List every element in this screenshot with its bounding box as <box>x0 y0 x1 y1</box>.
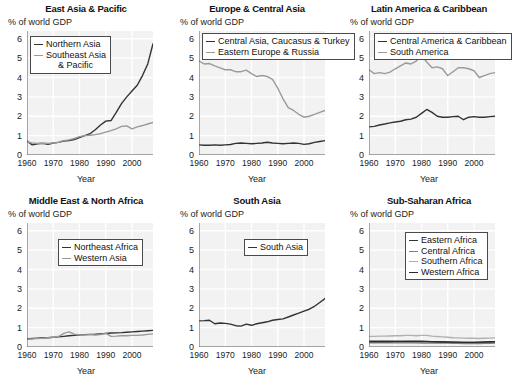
x-tick-label: 1990 <box>268 158 287 168</box>
legend-item: Northern Asia <box>34 39 106 50</box>
legend: Eastern AfricaCentral AfricaSouthern Afr… <box>405 232 488 280</box>
x-tick-label: 1980 <box>70 158 89 168</box>
x-tick-label: 2000 <box>123 350 142 360</box>
legend-line-swatch <box>206 52 215 53</box>
y-tick-label: 2 <box>6 111 22 121</box>
legend-label: Central Asia, Caucasus & Turkey <box>218 36 350 47</box>
x-tick-label: 1970 <box>44 350 63 360</box>
x-tick-label: 1960 <box>360 158 379 168</box>
legend-item: Eastern Europe & Russia <box>206 47 350 58</box>
legend-line-swatch <box>34 44 43 45</box>
legend: Northeast AfricaWestern Asia <box>58 239 143 266</box>
x-axis-ticks: 19601970198019902000 <box>369 156 495 170</box>
x-axis-title: Year <box>0 174 172 184</box>
chart-panel: Sub-Saharan Africa% of world GDP01234561… <box>342 192 516 384</box>
y-tick-label: 6 <box>6 226 22 236</box>
y-tick-label: 6 <box>178 34 194 44</box>
y-tick-label: 2 <box>6 303 22 313</box>
legend-line-swatch <box>378 52 387 53</box>
x-axis-title: Year <box>342 174 516 184</box>
y-axis-ticks: 0123456 <box>176 223 194 347</box>
x-axis-title: Year <box>172 174 342 184</box>
legend-line-swatch <box>206 41 215 42</box>
x-axis-title: Year <box>342 366 516 376</box>
y-tick-label: 3 <box>6 284 22 294</box>
y-tick-label: 4 <box>178 265 194 275</box>
x-axis-ticks: 19601970198019902000 <box>199 348 325 362</box>
y-tick-label: 5 <box>6 53 22 63</box>
y-axis-ticks: 0123456 <box>176 31 194 155</box>
x-tick-label: 2000 <box>295 350 314 360</box>
legend-item: Central America & Caribbean <box>378 36 507 47</box>
legend-line-swatch <box>409 240 418 241</box>
legend-line-swatch <box>409 251 418 252</box>
y-tick-label: 5 <box>178 53 194 63</box>
legend-line-swatch <box>62 258 71 259</box>
legend-item: South Asia <box>248 242 303 253</box>
y-axis-unit-label: % of world GDP <box>8 209 72 219</box>
x-tick-label: 1990 <box>438 350 457 360</box>
legend: Central America & CaribbeanSouth America <box>374 33 512 60</box>
x-tick-label: 1980 <box>412 350 431 360</box>
legend: South Asia <box>244 239 308 256</box>
x-tick-label: 2000 <box>295 158 314 168</box>
panel-title: East Asia & Pacific <box>0 3 172 14</box>
figure-grid: East Asia & Pacific% of world GDP0123456… <box>0 0 516 384</box>
legend-item: Western Africa <box>409 267 483 278</box>
x-tick-label: 1990 <box>96 350 115 360</box>
legend-item: Western Asia <box>62 253 138 264</box>
y-tick-label: 2 <box>178 303 194 313</box>
panel-title: South Asia <box>172 195 342 206</box>
legend-item: Central Africa <box>409 246 483 257</box>
x-tick-label: 1960 <box>18 158 37 168</box>
legend-label: Western Africa <box>421 267 479 278</box>
legend-label: Western Asia <box>74 253 127 264</box>
legend-label: Eastern Africa <box>421 235 477 246</box>
y-axis-ticks: 0123456 <box>4 31 22 155</box>
x-tick-label: 1980 <box>242 158 261 168</box>
legend-label: South America <box>390 47 449 58</box>
panel-title: Middle East & North Africa <box>0 195 172 206</box>
x-axis-title: Year <box>172 366 342 376</box>
x-tick-label: 1990 <box>96 158 115 168</box>
panel-title: Europe & Central Asia <box>172 3 342 14</box>
y-tick-label: 5 <box>6 245 22 255</box>
legend-line-swatch <box>248 247 257 248</box>
chart-panel: South Asia% of world GDP0123456196019701… <box>172 192 342 384</box>
y-tick-label: 4 <box>348 73 364 83</box>
legend-label: Southern Africa <box>421 256 483 267</box>
panel-title: Latin America & Caribbean <box>342 3 516 14</box>
y-tick-label: 2 <box>178 111 194 121</box>
legend-label: Northern Asia <box>46 39 101 50</box>
legend-label: Northeast Africa <box>74 242 138 253</box>
legend-item: Southern Africa <box>409 256 483 267</box>
y-axis-unit-label: % of world GDP <box>350 209 414 219</box>
x-tick-label: 1970 <box>44 158 63 168</box>
y-axis-unit-label: % of world GDP <box>8 17 72 27</box>
legend-label: Eastern Europe & Russia <box>218 47 319 58</box>
y-tick-label: 4 <box>178 73 194 83</box>
legend-line-swatch <box>409 272 418 273</box>
legend-item: South America <box>378 47 507 58</box>
x-axis-ticks: 19601970198019902000 <box>199 156 325 170</box>
chart-panel: Europe & Central Asia% of world GDP01234… <box>172 0 342 192</box>
legend-line-swatch <box>34 55 43 56</box>
y-axis-unit-label: % of world GDP <box>180 209 244 219</box>
legend-line-swatch <box>62 247 71 248</box>
panel-title: Sub-Saharan Africa <box>342 195 516 206</box>
x-tick-label: 1970 <box>386 350 405 360</box>
x-tick-label: 1960 <box>190 350 209 360</box>
chart-panel: East Asia & Pacific% of world GDP0123456… <box>0 0 172 192</box>
x-axis-title: Year <box>0 366 172 376</box>
legend-line-swatch <box>409 261 418 262</box>
y-axis-ticks: 0123456 <box>4 223 22 347</box>
legend-line-swatch <box>378 41 387 42</box>
chart-panel: Middle East & North Africa% of world GDP… <box>0 192 172 384</box>
x-axis-ticks: 19601970198019902000 <box>27 348 153 362</box>
legend-label: Central Africa <box>421 246 475 257</box>
y-tick-label: 6 <box>348 226 364 236</box>
y-axis-unit-label: % of world GDP <box>350 17 414 27</box>
legend-item: Southeast Asia& Pacific <box>34 50 106 71</box>
y-tick-label: 3 <box>6 92 22 102</box>
x-axis-ticks: 19601970198019902000 <box>27 156 153 170</box>
